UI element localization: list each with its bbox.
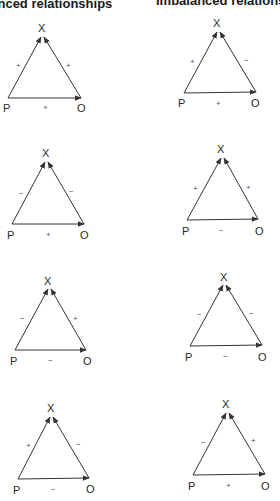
vertex-x-label: X [47,402,55,414]
edge-o-x [53,417,89,478]
sign-p-x: + [26,441,31,450]
vertex-x-label: X [38,22,46,34]
vertex-x-label: X [213,17,221,29]
edge-p-x [8,37,41,98]
edge-p-o [193,474,265,475]
vertex-p-label: P [7,229,14,241]
edge-p-o [18,478,89,479]
triangle-imbalanced-1: X P O + − + [178,17,260,109]
sign-p-o: + [226,481,231,490]
sign-p-x: + [193,184,198,193]
triangle-balanced-2: X P O − − + [7,147,89,241]
edge-p-x [190,285,223,346]
sign-o-x: + [66,61,71,70]
sign-p-x: − [19,189,24,198]
triangle-imbalanced-3: X P O − − − [185,271,267,363]
sign-o-x: + [73,314,78,323]
sign-p-o: − [51,485,56,494]
vertex-x-label: X [220,271,228,283]
sign-p-o: + [46,230,51,239]
edge-o-x [44,37,81,98]
edge-o-x [226,285,262,345]
vertex-p-label: P [13,484,20,496]
vertex-p-label: P [178,97,185,109]
vertex-x-label: X [42,147,50,159]
edge-p-o [190,345,262,346]
vertex-o-label: O [258,351,267,363]
vertex-o-label: O [86,483,95,495]
vertex-p-label: P [3,102,10,114]
vertex-o-label: O [261,480,270,492]
sign-p-o: − [48,356,53,365]
sign-p-o: − [219,226,224,235]
edge-o-x [220,32,256,92]
sign-o-x: − [249,309,254,318]
sign-o-x: − [69,187,74,196]
edge-p-x [184,32,217,93]
sign-p-o: + [43,103,48,112]
vertex-x-label: X [217,143,225,155]
edge-p-o [184,92,256,93]
sign-p-x: + [16,61,21,70]
sign-p-x: + [190,57,195,66]
vertex-o-label: O [77,102,86,114]
vertex-o-label: O [255,225,264,237]
sign-p-o: + [216,99,221,108]
sign-o-x: + [246,183,251,192]
triangle-balanced-3: X P O − + − [10,275,92,367]
vertex-o-label: O [251,97,260,109]
vertex-x-label: X [44,275,52,287]
edge-p-x [18,417,50,479]
edge-p-x [193,413,226,475]
vertex-x-label: X [222,398,230,410]
triangle-balanced-1: X P O + + + [3,22,86,114]
vertex-p-label: P [188,480,195,492]
vertex-p-label: P [10,355,17,367]
pox-triangles-diagram: X P O + + + X P O + − + X P O − − + X P … [0,0,280,501]
edge-p-x [12,162,45,224]
edge-o-x [229,413,265,474]
sign-p-x: − [197,310,202,319]
sign-p-x: − [20,314,25,323]
triangle-imbalanced-2: X P O + + − [182,143,264,237]
vertex-o-label: O [83,355,92,367]
sign-p-o: − [223,352,228,361]
edge-p-o [187,219,258,220]
edge-o-x [48,162,84,224]
vertex-p-label: P [182,225,189,237]
triangle-balanced-4: X P O + − − [13,402,95,496]
vertex-p-label: P [185,351,192,363]
sign-o-x: − [244,56,249,65]
vertex-o-label: O [80,229,89,241]
sign-p-x: − [201,438,206,447]
edge-o-x [224,158,258,219]
edge-o-x [51,289,86,350]
triangle-imbalanced-4: X P O − + + [188,398,270,492]
sign-o-x: − [76,440,81,449]
sign-o-x: + [251,436,256,445]
